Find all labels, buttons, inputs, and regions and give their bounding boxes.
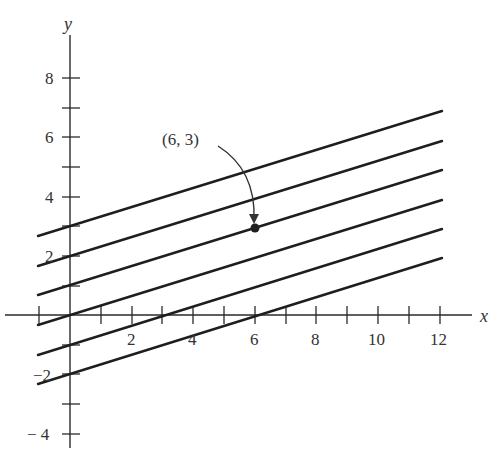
x-tick-label-12: 12 — [430, 330, 447, 349]
y-axis-label: y — [62, 14, 72, 34]
y-tick-label-6: 6 — [45, 128, 54, 147]
y-tick-label-2: 2 — [45, 247, 54, 266]
point-6-3 — [251, 224, 260, 233]
line-b0 — [38, 200, 442, 325]
y-tick-label-4: 4 — [45, 188, 54, 207]
slope-field-chart: y x (6, 3) 2 4 6 8 10 12 8 6 4 2 −2 − 4 — [0, 0, 502, 462]
line-b3 — [38, 111, 442, 236]
x-tick-label-6: 6 — [250, 330, 259, 349]
x-axis-label: x — [479, 306, 488, 326]
y-tick-label-neg2: −2 — [33, 366, 51, 385]
x-tick-label-8: 8 — [311, 330, 320, 349]
point-label: (6, 3) — [162, 130, 199, 149]
y-tick-label-8: 8 — [45, 69, 54, 88]
arrow-head-icon — [249, 214, 259, 224]
x-tick-label-2: 2 — [127, 330, 136, 349]
y-tick-label-neg4: − 4 — [27, 425, 50, 444]
x-tick-label-10: 10 — [368, 330, 385, 349]
x-tick-label-4: 4 — [188, 330, 197, 349]
